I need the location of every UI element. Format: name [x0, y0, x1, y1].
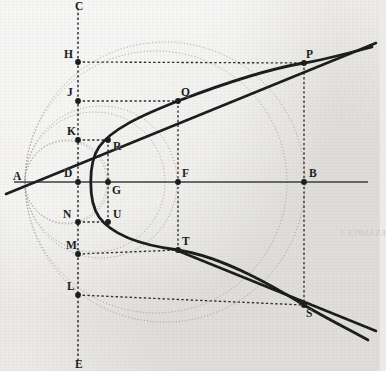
parabola-curve [91, 47, 372, 340]
point-label-T: T [182, 236, 190, 248]
point-dot-U [105, 219, 111, 225]
point-dot-P [301, 60, 307, 66]
point-dot-H [75, 59, 81, 65]
tangent-lines [6, 43, 376, 331]
point-label-F: F [182, 168, 189, 180]
point-label-L: L [67, 281, 75, 293]
point-label-J: J [67, 87, 73, 99]
point-dot-R [105, 137, 111, 143]
tangent-upper-through-P [6, 43, 376, 194]
point-label-P: P [306, 49, 313, 61]
connector-L-to-S [78, 295, 304, 305]
point-label-D: D [64, 168, 73, 180]
connector-H-to-P [78, 62, 304, 63]
point-label-M: M [66, 240, 77, 252]
point-label-B: B [309, 168, 317, 180]
point-label-N: N [63, 209, 72, 221]
point-label-A: A [13, 171, 22, 183]
point-label-R: R [113, 141, 122, 153]
point-label-K: K [67, 126, 76, 138]
point-dot-F [175, 179, 181, 185]
point-dot-L [75, 292, 81, 298]
point-dot-D [75, 179, 81, 185]
point-label-S: S [306, 308, 313, 320]
point-dot-Q [175, 98, 181, 104]
point-dot-B [301, 179, 307, 185]
tangent-lower-through-S [176, 250, 376, 331]
parabola [91, 47, 372, 340]
point-dot-K [75, 137, 81, 143]
ghost-text: EXAMPLE 1 [340, 230, 386, 238]
connector-M-to-T [78, 250, 178, 254]
point-label-C: C [75, 1, 84, 13]
point-dot-M [75, 251, 81, 257]
point-dot-T [175, 247, 181, 253]
point-label-G: G [112, 185, 121, 197]
point-dot-G [105, 179, 111, 185]
point-dot-J [75, 98, 81, 104]
point-label-Q: Q [181, 87, 190, 99]
point-dot-N [75, 219, 81, 225]
point-label-E: E [75, 359, 83, 371]
point-label-H: H [64, 49, 73, 61]
point-label-U: U [113, 209, 122, 221]
